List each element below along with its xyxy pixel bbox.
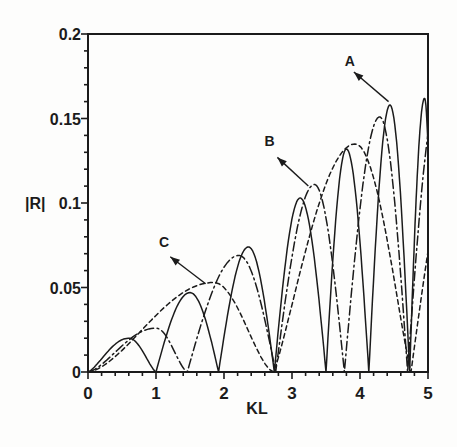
curve-label-B: B (264, 133, 274, 149)
curve-A (88, 98, 428, 372)
figure-reflection-coefficient-chart: 01234500.050.10.150.2|R|KLABC (0, 0, 457, 447)
x-axis-title: KL (246, 400, 268, 417)
y-tick-label: 0 (72, 364, 81, 381)
x-tick-label: 1 (151, 384, 160, 403)
y-tick-label: 0.05 (50, 280, 81, 297)
x-tick-label: 0 (83, 384, 92, 403)
x-tick-label: 4 (355, 384, 365, 403)
axes-frame (88, 34, 428, 372)
curve-label-C: C (159, 234, 169, 250)
curve-C (88, 144, 428, 372)
y-axis-title: |R| (25, 195, 46, 212)
y-tick-label: 0.1 (59, 195, 81, 212)
x-tick-label: 3 (287, 384, 296, 403)
x-tick-label: 5 (423, 384, 432, 403)
curve-label-A: A (345, 53, 355, 69)
x-tick-label: 2 (219, 384, 228, 403)
y-tick-label: 0.15 (50, 111, 81, 128)
y-tick-label: 0.2 (59, 26, 81, 43)
chart-canvas: 01234500.050.10.150.2|R|KLABC (0, 0, 457, 447)
annotation-arrowhead-C (170, 257, 180, 266)
